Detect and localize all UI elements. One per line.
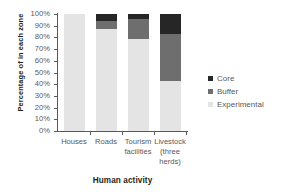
x-axis-title: Human activity (40, 176, 205, 185)
x-axis-tick-mark (90, 131, 91, 135)
y-axis-tick-label: 0% (16, 127, 50, 135)
y-axis-tick-label: 90% (16, 22, 50, 30)
y-axis-tick-label: 50% (16, 69, 50, 77)
bar-segment-buffer[interactable] (128, 19, 149, 39)
legend-swatch-icon (208, 89, 213, 94)
legend-item-label: Buffer (217, 87, 238, 96)
bar-segment-core[interactable] (128, 14, 149, 19)
bar-segment-experimental[interactable] (64, 14, 85, 131)
x-axis-category-label-line: Livestock (151, 137, 189, 147)
bar-segment-core[interactable] (96, 14, 117, 21)
x-axis-tick-mark (154, 131, 155, 135)
x-axis-category-label: Livestock(threeherds) (151, 137, 189, 168)
plot-area (58, 14, 186, 131)
y-axis-tick-label: 60% (16, 57, 50, 65)
bar-segment-experimental[interactable] (160, 81, 181, 131)
x-axis-category-label-line: herds) (151, 157, 189, 167)
bar-roads[interactable] (96, 14, 117, 131)
legend-item-core[interactable]: Core (208, 72, 264, 85)
y-axis-tick-label: 10% (16, 115, 50, 123)
x-axis-tick-mark (122, 131, 123, 135)
bar-segment-core[interactable] (160, 14, 181, 34)
chart-legend: CoreBufferExperimental (208, 72, 264, 111)
x-axis-tick-mark (186, 131, 187, 135)
bar-tourism-facilities[interactable] (128, 14, 149, 131)
legend-item-label: Core (217, 74, 234, 83)
x-axis-category-label-line: (three (151, 147, 189, 157)
y-axis-tick-label: 80% (16, 33, 50, 41)
y-axis-tick-label: 100% (16, 10, 50, 18)
bar-livestock-three-herds[interactable] (160, 14, 181, 131)
legend-item-label: Experimental (217, 100, 264, 109)
bar-segment-buffer[interactable] (96, 21, 117, 29)
stacked-bar-chart: Percentage of in each zone 0%10%20%30%40… (0, 0, 284, 195)
y-axis-tick-label: 70% (16, 45, 50, 53)
legend-item-experimental[interactable]: Experimental (208, 98, 264, 111)
y-axis-tick-label: 30% (16, 92, 50, 100)
legend-item-buffer[interactable]: Buffer (208, 85, 264, 98)
y-axis-tick-label: 40% (16, 80, 50, 88)
bar-segment-buffer[interactable] (160, 34, 181, 81)
bar-segment-experimental[interactable] (128, 39, 149, 131)
y-axis-tick-label: 20% (16, 104, 50, 112)
legend-swatch-icon (208, 76, 213, 81)
bar-segment-experimental[interactable] (96, 29, 117, 131)
bar-houses[interactable] (64, 14, 85, 131)
legend-swatch-icon (208, 102, 213, 107)
